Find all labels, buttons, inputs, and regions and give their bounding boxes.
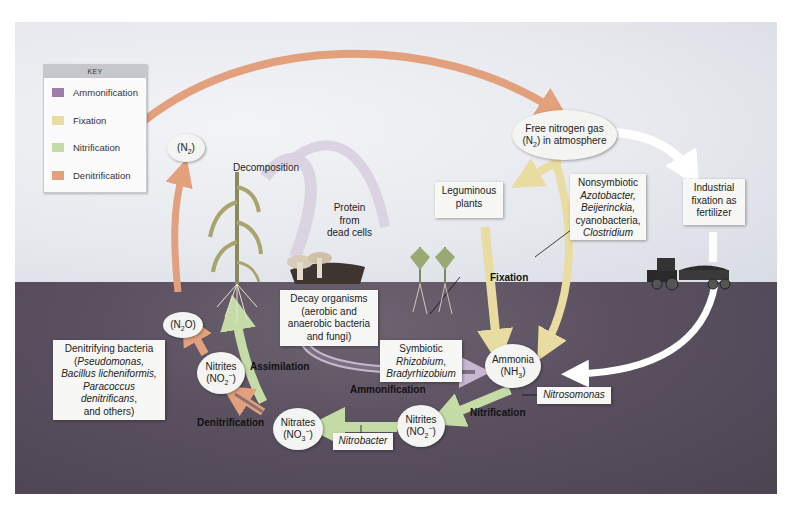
process-label-fixation: Fixation (490, 272, 528, 283)
arrow-n2o-to-n2 (175, 172, 183, 292)
legend-item-fixation: Fixation (52, 113, 106, 127)
arrow-industrial-to-ammonia (575, 284, 715, 374)
process-label-denitrification: Denitrification (197, 417, 264, 428)
legend-title: KEY (44, 65, 146, 78)
corn-plant-illustration (210, 172, 261, 322)
legend-key: KEY Ammonification Fixation Nitrificatio… (43, 64, 147, 193)
node-ammonia: Ammonia(NH3) (485, 344, 541, 388)
legend-label: Fixation (73, 115, 106, 126)
label-nitrosomonas: Nitrosomonas (537, 387, 611, 404)
swatch-ammonification (52, 88, 64, 97)
node-free-nitrogen-gas: Free nitrogen gas(N2) in atmosphere (512, 110, 617, 160)
label-denitrifying-bacteria: Denitrifying bacteria (Pseudomonas, Baci… (53, 340, 165, 420)
arrow-atmosphere-to-ammonia (545, 160, 569, 347)
label-decomposition: Decomposition (233, 162, 299, 175)
process-label-nitrification: Nitrification (470, 407, 526, 418)
arrow-n2-to-atmosphere (133, 54, 555, 130)
label-symbiotic-bacteria: Symbiotic Rhizobium, Bradyrhizobium (380, 340, 462, 382)
arrow-legumes-to-ammonia (485, 227, 497, 347)
label-nitrobacter: Nitrobacter (333, 433, 393, 450)
label-leguminous-plants: Leguminousplants (435, 182, 503, 218)
node-nitrites-upper: Nitrites(NO2−) (197, 352, 245, 394)
label-protein-from-dead-cells: Proteinfromdead cells (327, 202, 372, 240)
arrow-assimilation (235, 312, 263, 402)
swatch-nitrification (52, 143, 64, 152)
node-n2o: (N2O) (163, 312, 203, 338)
legend-label: Ammonification (73, 87, 138, 98)
node-n2: (N2) (167, 134, 205, 162)
label-decay-organisms: Decay organisms(aerobic andanaerobic bac… (280, 290, 378, 346)
nitrogen-cycle-diagram: KEY Ammonification Fixation Nitrificatio… (15, 22, 777, 494)
process-label-ammonification: Ammonification (350, 384, 426, 395)
node-nitrates: Nitrates(NO3−) (273, 408, 323, 450)
process-label-assimilation: Assimilation (250, 361, 309, 372)
legend-item-nitrification: Nitrification (52, 140, 120, 154)
swatch-denitrification (52, 171, 64, 180)
label-industrial-fixation: Industrialfixation asfertilizer (683, 179, 745, 225)
label-nonsymbiotic-bacteria: Nonsymbiotic Azotobacter, Beijerinckia, … (570, 174, 646, 240)
legend-label: Nitrification (73, 142, 120, 153)
swatch-fixation (52, 116, 64, 125)
node-nitrites-lower: Nitrites(NO2−) (397, 405, 445, 447)
legend-label: Denitrification (73, 170, 131, 181)
legend-item-ammonification: Ammonification (52, 85, 138, 99)
mushrooms-and-log-illustration (287, 252, 365, 284)
tractor-illustration (647, 258, 730, 290)
legend-item-denitrification: Denitrification (52, 168, 131, 182)
legume-plants-illustration (410, 247, 455, 314)
